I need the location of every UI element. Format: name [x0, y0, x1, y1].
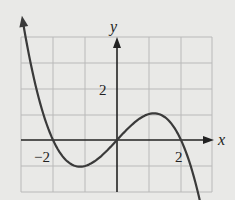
y-axis-arrow-icon — [113, 37, 121, 48]
y-tick-label-2: 2 — [99, 82, 107, 98]
x-tick-label-neg2: −2 — [34, 149, 50, 165]
curve-arrow-left-icon — [19, 16, 28, 28]
axes — [21, 44, 208, 192]
x-tick-label-2: 2 — [175, 149, 183, 165]
function-graph: x y −2 2 2 — [0, 0, 235, 200]
y-axis-label: y — [108, 18, 118, 36]
x-axis-label: x — [217, 131, 225, 148]
